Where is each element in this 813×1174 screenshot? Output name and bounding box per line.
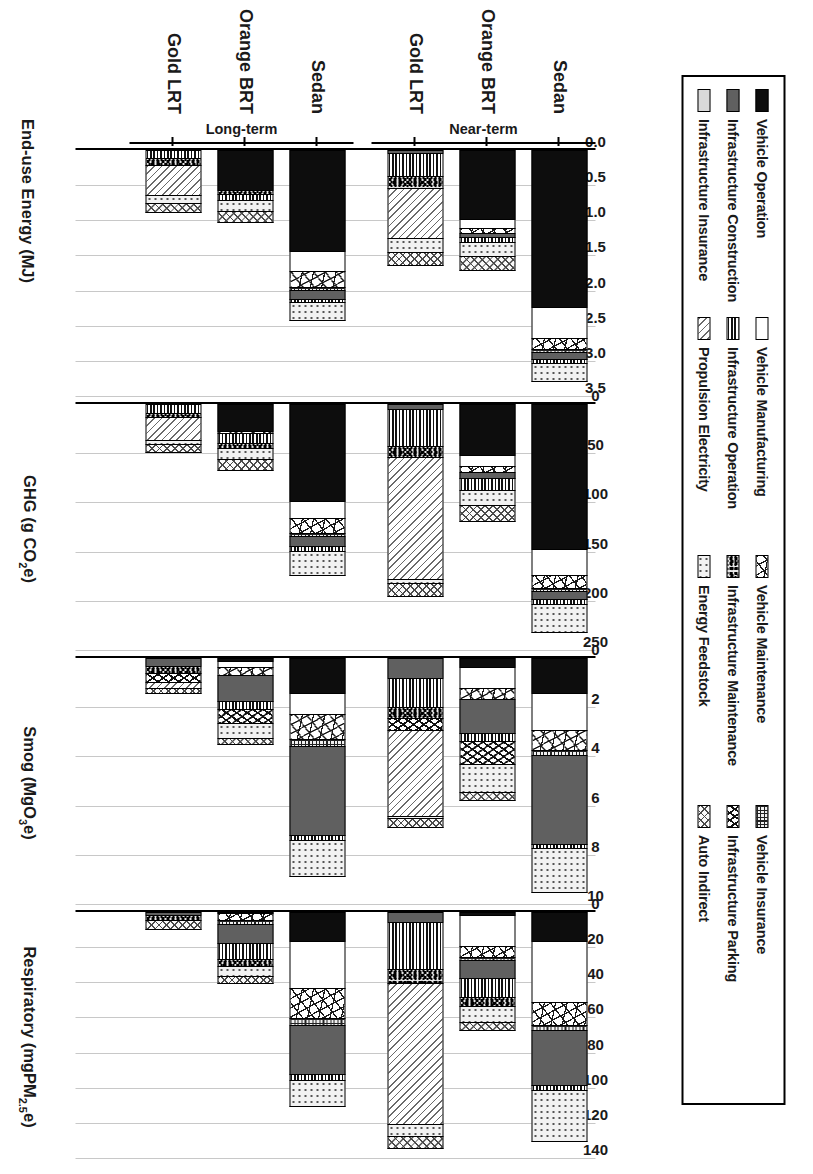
bar-segment-infrastructure-maintenance[interactable] — [217, 960, 273, 967]
bar-segment-infrastructure-construction[interactable] — [531, 1031, 587, 1085]
bar-segment-vehicle-maintenance[interactable] — [459, 947, 515, 958]
bar-segment-vehicle-operation[interactable] — [459, 150, 515, 220]
bar-segment-vehicle-manufacturing[interactable] — [459, 668, 515, 689]
bar-segment-infrastructure-construction[interactable] — [387, 658, 443, 679]
bar-segment-infrastructure-construction[interactable] — [387, 912, 443, 923]
bar-segment-auto-indirect[interactable] — [217, 977, 273, 984]
bar-segment-auto-indirect[interactable] — [145, 445, 201, 453]
bar-segment-vehicle-maintenance[interactable] — [459, 689, 515, 700]
bar-row[interactable] — [459, 150, 515, 271]
bar-segment-energy-feedstock[interactable] — [217, 449, 273, 460]
bar-row[interactable] — [531, 912, 587, 1142]
bar-segment-energy-feedstock[interactable] — [289, 841, 345, 877]
bar-segment-infrastructure-parking[interactable] — [459, 742, 515, 765]
bar-segment-vehicle-operation[interactable] — [531, 658, 587, 694]
bar-row[interactable] — [289, 658, 345, 877]
bar-segment-infrastructure-operation[interactable] — [387, 154, 443, 177]
bar-segment-infrastructure-operation[interactable] — [145, 150, 201, 159]
bar-segment-auto-indirect[interactable] — [217, 460, 273, 471]
bar-segment-energy-feedstock[interactable] — [531, 849, 587, 893]
bar-segment-auto-indirect[interactable] — [459, 257, 515, 271]
bar-segment-vehicle-insurance[interactable] — [289, 1019, 345, 1026]
bar-segment-vehicle-maintenance[interactable] — [289, 715, 345, 741]
bar-segment-infrastructure-parking[interactable] — [145, 674, 201, 683]
bar-segment-energy-feedstock[interactable] — [217, 724, 273, 739]
bar-segment-energy-feedstock[interactable] — [217, 967, 273, 978]
bar-segment-vehicle-manufacturing[interactable] — [531, 942, 587, 1003]
bar-row[interactable] — [387, 150, 443, 266]
bar-segment-vehicle-maintenance[interactable] — [289, 989, 345, 1019]
bar-segment-energy-feedstock[interactable] — [387, 1125, 443, 1137]
bar-segment-vehicle-manufacturing[interactable] — [459, 916, 515, 948]
bar-segment-energy-feedstock[interactable] — [531, 605, 587, 634]
bar-segment-vehicle-maintenance[interactable] — [531, 576, 587, 589]
bar-segment-infrastructure-maintenance[interactable] — [459, 998, 515, 1007]
bar-segment-propulsion-electricity[interactable] — [145, 418, 201, 442]
bar-segment-energy-feedstock[interactable] — [459, 243, 515, 256]
bar-segment-vehicle-maintenance[interactable] — [217, 668, 273, 677]
bar-segment-auto-indirect[interactable] — [387, 584, 443, 597]
bar-row[interactable] — [289, 150, 345, 321]
bar-segment-vehicle-maintenance[interactable] — [531, 731, 587, 752]
bar-segment-auto-indirect[interactable] — [145, 921, 201, 930]
bar-segment-infrastructure-construction[interactable] — [531, 756, 587, 845]
bar-segment-vehicle-operation[interactable] — [459, 658, 515, 668]
bar-segment-energy-feedstock[interactable] — [289, 1081, 345, 1107]
bar-segment-infrastructure-maintenance[interactable] — [145, 667, 201, 674]
bar-segment-infrastructure-operation[interactable] — [387, 679, 443, 709]
bar-segment-vehicle-maintenance[interactable] — [531, 339, 587, 350]
bar-row[interactable] — [531, 658, 587, 893]
bar-row[interactable] — [145, 404, 201, 453]
bar-segment-propulsion-electricity[interactable] — [387, 984, 443, 1125]
bar-segment-vehicle-manufacturing[interactable] — [289, 942, 345, 989]
bar-segment-infrastructure-construction[interactable] — [289, 1026, 345, 1075]
bar-segment-auto-indirect[interactable] — [145, 204, 201, 213]
bar-segment-propulsion-electricity[interactable] — [145, 166, 201, 196]
bar-row[interactable] — [531, 150, 587, 382]
bar-segment-auto-indirect[interactable] — [459, 1023, 515, 1032]
bar-row[interactable] — [387, 404, 443, 597]
bar-segment-vehicle-manufacturing[interactable] — [459, 220, 515, 229]
bar-segment-infrastructure-construction[interactable] — [145, 658, 201, 667]
bar-row[interactable] — [217, 912, 273, 984]
bar-segment-vehicle-operation[interactable] — [289, 658, 345, 694]
bar-segment-auto-indirect[interactable] — [217, 212, 273, 223]
bar-segment-infrastructure-maintenance[interactable] — [387, 970, 443, 984]
bar-segment-energy-feedstock[interactable] — [217, 201, 273, 212]
bar-row[interactable] — [145, 150, 201, 213]
bar-segment-infrastructure-parking[interactable] — [387, 719, 443, 730]
bar-segment-vehicle-manufacturing[interactable] — [459, 456, 515, 467]
bar-segment-infrastructure-operation[interactable] — [387, 923, 443, 970]
bar-segment-auto-indirect[interactable] — [459, 506, 515, 522]
bar-segment-infrastructure-construction[interactable] — [531, 592, 587, 600]
bar-segment-energy-feedstock[interactable] — [459, 765, 515, 792]
bar-segment-infrastructure-operation[interactable] — [459, 734, 515, 743]
bar-row[interactable] — [289, 404, 345, 576]
bar-segment-vehicle-manufacturing[interactable] — [531, 308, 587, 339]
bar-segment-auto-indirect[interactable] — [387, 1137, 443, 1149]
bar-row[interactable] — [145, 658, 201, 694]
bar-segment-vehicle-operation[interactable] — [531, 404, 587, 550]
bar-segment-vehicle-operation[interactable] — [531, 150, 587, 308]
bar-segment-infrastructure-construction[interactable] — [459, 700, 515, 733]
bar-segment-vehicle-operation[interactable] — [289, 404, 345, 502]
bar-segment-vehicle-operation[interactable] — [289, 912, 345, 942]
bar-segment-vehicle-operation[interactable] — [531, 912, 587, 942]
bar-segment-vehicle-manufacturing[interactable] — [289, 694, 345, 715]
bar-segment-propulsion-electricity[interactable] — [387, 731, 443, 817]
bar-segment-vehicle-manufacturing[interactable] — [289, 502, 345, 519]
bar-segment-infrastructure-maintenance[interactable] — [387, 177, 443, 190]
bar-segment-vehicle-operation[interactable] — [459, 404, 515, 456]
bar-segment-infrastructure-operation[interactable] — [145, 404, 201, 414]
bar-segment-infrastructure-operation[interactable] — [217, 702, 273, 709]
bar-segment-vehicle-operation[interactable] — [217, 404, 273, 432]
bar-row[interactable] — [289, 912, 345, 1107]
bar-segment-infrastructure-construction[interactable] — [531, 353, 587, 360]
bar-segment-infrastructure-construction[interactable] — [289, 747, 345, 837]
bar-segment-infrastructure-construction[interactable] — [459, 961, 515, 979]
bar-segment-infrastructure-operation[interactable] — [459, 979, 515, 998]
bar-segment-vehicle-maintenance[interactable] — [217, 914, 273, 921]
bar-segment-vehicle-operation[interactable] — [217, 150, 273, 191]
bar-segment-infrastructure-operation[interactable] — [459, 479, 515, 491]
bar-segment-infrastructure-construction[interactable] — [289, 291, 345, 299]
